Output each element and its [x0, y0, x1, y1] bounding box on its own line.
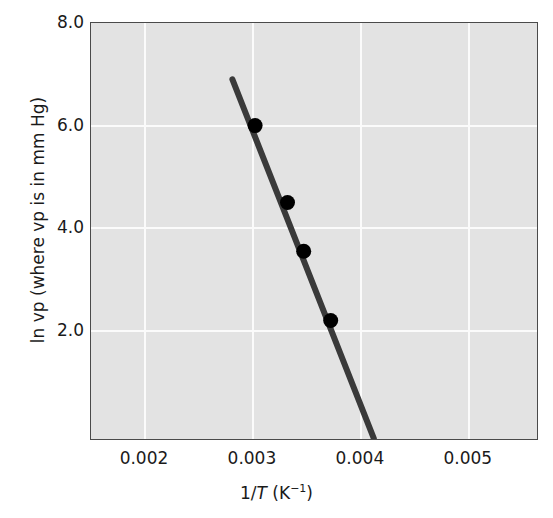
best-fit-line	[232, 79, 373, 438]
x-axis-title-unit-close: )	[306, 483, 313, 503]
data-point	[296, 244, 311, 259]
x-tick-label-0.002: 0.002	[99, 448, 189, 468]
x-tick-label-0.003: 0.003	[207, 448, 297, 468]
x-axis-title-unit-open: (K	[267, 483, 290, 503]
x-axis-title: 1/T (K−1)	[0, 482, 553, 503]
data-point	[248, 118, 263, 133]
x-tick-label-0.004: 0.004	[315, 448, 405, 468]
y-axis-title: ln vp (where vp is in mm Hg)	[28, 70, 48, 370]
x-axis-title-prefix: 1/	[240, 483, 257, 503]
data-point	[280, 195, 295, 210]
plot-area	[90, 22, 538, 440]
data-point	[323, 313, 338, 328]
data-layer	[91, 23, 538, 440]
chart-figure: 8.0 6.0 4.0 2.0 0.002 0.003 0.004 0.005 …	[0, 0, 553, 518]
x-tick-label-0.005: 0.005	[423, 448, 513, 468]
best-fit-line-group	[232, 79, 373, 438]
y-tick-label-8.0: 8.0	[8, 12, 84, 32]
x-axis-title-variable: T	[257, 483, 267, 503]
x-axis-title-exponent: −1	[290, 482, 306, 495]
